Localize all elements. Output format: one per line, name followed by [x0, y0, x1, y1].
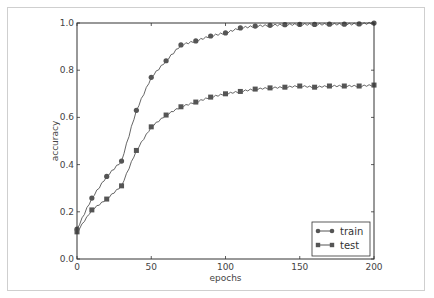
data-point-train: [267, 23, 272, 28]
plot-lines: [77, 22, 374, 232]
y-axis-label: accuracy: [50, 120, 60, 161]
data-point-test: [104, 197, 109, 202]
data-point-train: [164, 58, 169, 63]
data-point-train: [342, 22, 347, 27]
data-point-test: [164, 113, 169, 118]
data-point-test: [282, 85, 287, 90]
data-point-test: [178, 104, 183, 109]
data-point-test: [253, 87, 258, 92]
data-point-test: [193, 100, 198, 105]
x-tick-label: 0: [74, 262, 80, 272]
data-point-test: [238, 89, 243, 94]
x-tick-label: 200: [365, 262, 382, 272]
data-point-train: [178, 42, 183, 47]
data-point-train: [253, 23, 258, 28]
y-tick-label: 0.8: [60, 65, 75, 75]
data-point-train: [134, 108, 139, 113]
x-tick-label: 50: [146, 262, 158, 272]
y-tick-label: 1.0: [60, 18, 75, 28]
data-point-train: [104, 174, 109, 179]
data-point-test: [312, 85, 317, 90]
svg-text:train: train: [340, 226, 363, 237]
y-tick-label: 0.2: [60, 207, 74, 217]
plot-markers: [74, 20, 376, 234]
data-point-train: [238, 25, 243, 30]
data-point-test: [342, 84, 347, 89]
x-tick-label: 100: [217, 262, 234, 272]
data-point-train: [223, 30, 228, 35]
data-point-train: [357, 21, 362, 26]
y-tick-label: 0.6: [60, 112, 75, 122]
data-point-test: [268, 85, 273, 90]
data-point-train: [89, 196, 94, 201]
square-marker-icon: [316, 243, 320, 247]
data-point-test: [327, 84, 332, 89]
data-point-train: [149, 75, 154, 80]
data-point-test: [89, 207, 94, 212]
y-tick-label: 0.0: [60, 254, 75, 264]
data-point-train: [193, 38, 198, 43]
data-point-test: [297, 84, 302, 89]
x-axis-label: epochs: [209, 273, 241, 283]
data-point-test: [208, 95, 213, 100]
series-line-test: [77, 85, 374, 232]
y-tick-label: 0.4: [60, 160, 75, 170]
data-point-test: [357, 84, 362, 89]
svg-text:test: test: [340, 240, 359, 251]
accuracy-chart: 050100150200 0.00.20.40.60.81.0 epochs a…: [0, 0, 434, 298]
data-point-test: [149, 124, 154, 129]
legend: train test: [312, 222, 370, 256]
data-point-test: [134, 148, 139, 153]
x-tick-label: 150: [291, 262, 308, 272]
data-point-test: [119, 183, 124, 188]
circle-marker-icon: [316, 229, 321, 234]
series-line-train: [77, 22, 374, 229]
data-point-train: [208, 33, 213, 38]
data-point-train: [119, 158, 124, 163]
data-point-test: [223, 91, 228, 96]
data-point-train: [327, 22, 332, 27]
